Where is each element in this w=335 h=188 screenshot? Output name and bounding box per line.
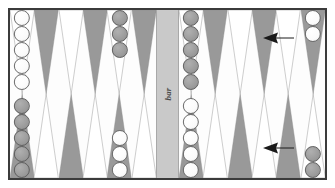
point-4[interactable]	[83, 10, 107, 94]
point-9[interactable]	[228, 10, 252, 94]
point-1[interactable]	[10, 10, 34, 94]
point-13[interactable]	[10, 94, 34, 178]
point-16[interactable]	[83, 94, 107, 178]
point-triangle-19	[179, 94, 203, 178]
point-20[interactable]	[203, 94, 227, 178]
quadrant-top-left	[10, 10, 156, 94]
point-5[interactable]	[107, 10, 131, 94]
point-triangle-21	[228, 94, 252, 178]
backgammon-board-screenshot: bar	[0, 0, 335, 188]
point-19[interactable]	[179, 94, 203, 178]
point-triangle-16	[83, 94, 107, 178]
board-bar[interactable]: bar	[156, 10, 179, 178]
point-triangle-14	[34, 94, 58, 178]
point-14[interactable]	[34, 94, 58, 178]
board-half-left	[10, 10, 156, 178]
point-triangle-9	[228, 10, 252, 94]
point-triangle-18	[132, 94, 156, 178]
quadrant-bottom-right	[179, 94, 325, 178]
bar-label: bar	[162, 87, 172, 100]
quadrant-top-right	[179, 10, 325, 94]
point-triangle-12	[301, 10, 325, 94]
point-10[interactable]	[252, 10, 276, 94]
point-triangle-23	[276, 94, 300, 178]
point-24[interactable]	[301, 94, 325, 178]
board-half-right	[179, 10, 325, 178]
point-12[interactable]	[301, 10, 325, 94]
point-15[interactable]	[59, 94, 83, 178]
backgammon-board: bar	[8, 8, 327, 180]
point-triangle-8	[203, 10, 227, 94]
point-triangle-11	[276, 10, 300, 94]
point-8[interactable]	[203, 10, 227, 94]
point-triangle-7	[179, 10, 203, 94]
point-triangle-6	[132, 10, 156, 94]
point-triangle-10	[252, 10, 276, 94]
point-triangle-22	[252, 94, 276, 178]
point-triangle-4	[83, 10, 107, 94]
point-3[interactable]	[59, 10, 83, 94]
point-triangle-17	[107, 94, 131, 178]
point-triangle-3	[59, 10, 83, 94]
point-triangle-15	[59, 94, 83, 178]
point-6[interactable]	[132, 10, 156, 94]
point-7[interactable]	[179, 10, 203, 94]
point-2[interactable]	[34, 10, 58, 94]
point-triangle-2	[34, 10, 58, 94]
point-17[interactable]	[107, 94, 131, 178]
point-triangle-13	[10, 94, 34, 178]
point-23[interactable]	[276, 94, 300, 178]
point-triangle-24	[301, 94, 325, 178]
quadrant-bottom-left	[10, 94, 156, 178]
point-18[interactable]	[132, 94, 156, 178]
point-21[interactable]	[228, 94, 252, 178]
point-11[interactable]	[276, 10, 300, 94]
point-triangle-5	[107, 10, 131, 94]
point-triangle-20	[203, 94, 227, 178]
point-triangle-1	[10, 10, 34, 94]
point-22[interactable]	[252, 94, 276, 178]
